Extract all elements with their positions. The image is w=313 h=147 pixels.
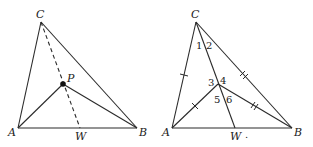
right-figure: C A B W . 1 2 3 4 5 6 — [161, 8, 302, 143]
label-B-right: B — [293, 126, 302, 139]
angle-label-3: 3 — [208, 77, 214, 88]
label-C-right: C — [191, 8, 200, 21]
angle-label-4: 4 — [220, 75, 226, 86]
point-P-dot — [60, 81, 66, 87]
segment-PB — [218, 84, 292, 128]
segment-CA — [18, 22, 41, 128]
segment-CB — [41, 22, 137, 128]
label-P-left: P — [66, 72, 75, 85]
segment-PA — [18, 84, 63, 128]
label-B-left: B — [138, 126, 147, 139]
label-W-dot: . — [245, 129, 248, 140]
left-figure: C A B P W — [7, 8, 147, 143]
label-A-right: A — [161, 126, 170, 139]
angle-label-1: 1 — [196, 40, 202, 51]
segment-CW — [196, 22, 235, 128]
label-W-left: W — [75, 130, 88, 143]
segment-CB — [196, 22, 292, 128]
geometry-diagram: C A B P W C A B W . 1 2 3 4 — [0, 0, 313, 147]
angle-label-2: 2 — [206, 40, 212, 51]
label-C-left: C — [36, 8, 45, 21]
angle-label-6: 6 — [226, 94, 232, 105]
label-W-right: W — [230, 130, 243, 143]
segment-PB — [63, 84, 137, 128]
label-A-left: A — [7, 126, 16, 139]
angle-label-5: 5 — [214, 94, 220, 105]
